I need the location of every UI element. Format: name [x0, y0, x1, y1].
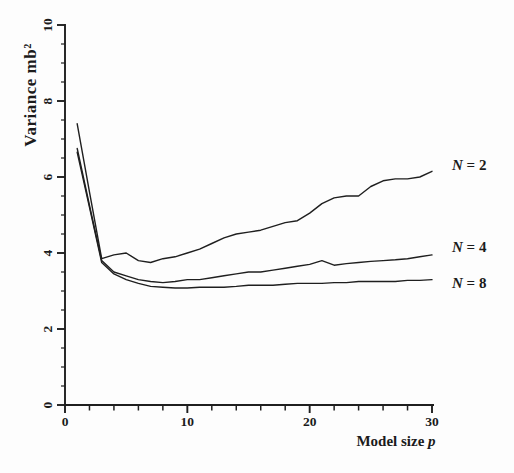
variance-vs-model-size-figure: 01020300246810 Variance mb² Model size p… — [0, 0, 514, 473]
series-line-n4 — [77, 149, 432, 283]
y-tick-label: 0 — [40, 401, 55, 408]
x-axis-title-text: Model size — [356, 433, 428, 449]
series-label-n8: N = 8 — [452, 275, 486, 292]
series-label-n4-variable: N — [452, 239, 463, 255]
x-tick-label: 10 — [181, 414, 195, 429]
x-axis-title-variable: p — [428, 433, 436, 449]
x-tick-label: 20 — [303, 414, 317, 429]
y-tick-label: 6 — [40, 173, 55, 180]
series-label-n2-value: = 2 — [463, 157, 487, 173]
x-tick-label: 0 — [62, 414, 69, 429]
y-axis-title: Variance mb² — [21, 43, 41, 147]
series-label-n8-variable: N — [452, 275, 463, 291]
series-label-n4: N = 4 — [452, 239, 486, 256]
series-label-n4-value: = 4 — [463, 239, 487, 255]
y-tick-label: 2 — [40, 325, 55, 332]
series-label-n2: N = 2 — [452, 157, 486, 174]
axes-line — [65, 24, 434, 405]
plot-canvas: 01020300246810 — [0, 0, 514, 473]
series-line-n8 — [77, 152, 432, 288]
x-axis-title: Model size p — [356, 433, 435, 450]
y-tick-label: 4 — [40, 249, 55, 256]
series-line-n2 — [77, 124, 432, 263]
x-tick-label: 30 — [425, 414, 439, 429]
y-tick-label: 10 — [40, 18, 55, 32]
series-label-n8-value: = 8 — [463, 275, 487, 291]
series-label-n2-variable: N — [452, 157, 463, 173]
y-tick-label: 8 — [40, 97, 55, 104]
y-axis-title-text: Variance mb² — [21, 43, 40, 147]
